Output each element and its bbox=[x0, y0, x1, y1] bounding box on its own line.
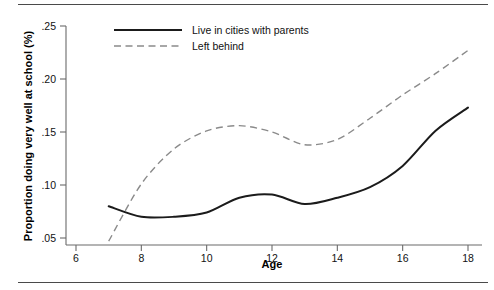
y-tick-label: .15 bbox=[41, 126, 56, 138]
y-axis-ticks: .05.10.15.20.25 bbox=[41, 20, 66, 244]
x-tick-label: 18 bbox=[462, 252, 474, 264]
y-tick-label: .10 bbox=[41, 179, 56, 191]
legend-label-2: Left behind bbox=[192, 40, 244, 52]
y-tick-label: .20 bbox=[41, 73, 56, 85]
series-line-2 bbox=[109, 50, 468, 241]
x-tick-label: 14 bbox=[331, 252, 343, 264]
figure-container: .05.10.15.20.25 681012141618 Proportion … bbox=[0, 0, 494, 290]
y-tick-label: .05 bbox=[41, 232, 56, 244]
y-tick-label: .25 bbox=[41, 20, 56, 32]
legend-label-1: Live in cities with parents bbox=[192, 24, 309, 36]
x-axis-title: Age bbox=[262, 258, 283, 270]
series-line-1 bbox=[109, 108, 468, 218]
y-axis-title: Proportion doing very well at school (%) bbox=[22, 31, 34, 242]
x-tick-label: 10 bbox=[201, 252, 213, 264]
line-chart: .05.10.15.20.25 681012141618 Proportion … bbox=[0, 0, 494, 290]
x-tick-label: 8 bbox=[138, 252, 144, 264]
x-tick-label: 6 bbox=[73, 252, 79, 264]
series-paths bbox=[109, 50, 468, 241]
chart-legend: Live in cities with parentsLeft behind bbox=[114, 24, 309, 52]
x-tick-label: 16 bbox=[397, 252, 409, 264]
